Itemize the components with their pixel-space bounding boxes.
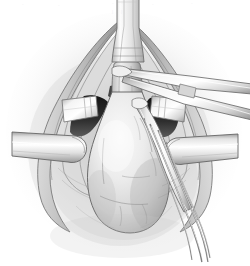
illustration-canvas: [0, 0, 250, 266]
base-shadow: [50, 214, 194, 258]
surgical-illustration-figure: ······||: [0, 0, 250, 266]
urethral-catheter-tube: [112, 0, 144, 62]
